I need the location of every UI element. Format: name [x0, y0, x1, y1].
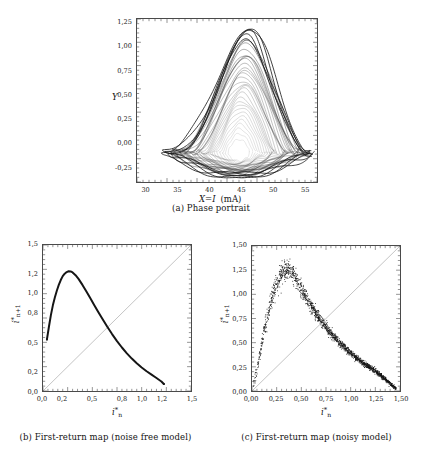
- panel-b-y-axis-star: *: [10, 317, 18, 320]
- panel-c-ytick-4: 0,50: [217, 339, 247, 347]
- panel-c-xtick-2: 0,50: [294, 395, 309, 403]
- panel-b-xtick-2: 0,5: [87, 395, 98, 403]
- panel-a-attractor: [161, 29, 314, 178]
- panel-a-xtick-3: 45: [237, 186, 245, 194]
- panel-phase-portrait: Y 1,25 1,00 0,75 0,50 0,25 0,00 -0,25 30…: [0, 0, 422, 232]
- panel-c-xtick-4: 1,00: [344, 395, 359, 403]
- panel-b-xtick-3: 0,8: [117, 395, 128, 403]
- panel-c-xtick-3: 0,75: [319, 395, 334, 403]
- panel-c-ytick-5: 0,25: [217, 364, 247, 372]
- panel-b-xtick-6: 1,5: [187, 395, 198, 403]
- panel-c-xtick-0: 0,00: [244, 395, 259, 403]
- panel-b-y-axis-symbol: i: [11, 321, 21, 324]
- panel-b-x-axis-title: i*n: [112, 406, 122, 418]
- panel-c-xtick-1: 0,25: [269, 395, 284, 403]
- panel-a-caption: (a) Phase portrait: [0, 203, 422, 213]
- panel-b-ytick-3: 0,8: [8, 309, 38, 317]
- panel-c-ytick-2: 1,00: [217, 290, 247, 298]
- panel-a-ytick-5: 0,00: [100, 139, 132, 147]
- panel-a-ytick-3: 0,50: [100, 91, 132, 99]
- panel-a-xtick-5: 55: [301, 186, 309, 194]
- panel-b-ytick-4: 0,5: [8, 339, 38, 347]
- figure-root: Y 1,25 1,00 0,75 0,50 0,25 0,00 -0,25 30…: [0, 0, 422, 459]
- panel-b-ytick-6: 0,0: [8, 388, 38, 396]
- panel-a-xtick-1: 35: [173, 186, 181, 194]
- panel-a-ytick-1: 1,00: [100, 42, 132, 50]
- panel-c-ytick-1: 1,25: [217, 266, 247, 274]
- panel-a-xtick-4: 50: [269, 186, 277, 194]
- panel-b-xtick-0: 0,0: [37, 395, 48, 403]
- panel-a-plot-area: [136, 18, 318, 183]
- panel-b-svg: [43, 245, 191, 391]
- panel-c-ytick-6: 0,00: [217, 388, 247, 396]
- panel-first-return-noisy: i*n+1 1,50 1,25 1,00 0,75 0,50 0,25 0,00…: [211, 236, 422, 459]
- panel-b-plot-area: [42, 244, 192, 392]
- panel-c-identity-line: [252, 246, 400, 391]
- panel-c-x-axis-title: i*n: [321, 406, 331, 418]
- panel-b-identity-line: [43, 245, 191, 391]
- panel-b-caption: (b) First-return map (noise free model): [0, 432, 211, 442]
- panel-c-xtick-6: 1,50: [394, 395, 409, 403]
- panel-c-svg: [252, 246, 400, 391]
- panel-a-ytick-0: 1,25: [100, 18, 132, 26]
- panel-b-ytick-0: 1,5: [8, 240, 38, 248]
- panel-c-caption: (c) First-return map (noisy model): [211, 432, 422, 442]
- panel-b-ytick-5: 0,2: [8, 368, 38, 376]
- panel-b-ytick-1: 1,2: [8, 270, 38, 278]
- panel-b-xtick-4: 1,0: [137, 395, 148, 403]
- panel-b-xtick-1: 0,2: [57, 395, 68, 403]
- panel-a-ytick-6: -0,25: [100, 164, 132, 172]
- panel-b-x-axis-sub: n: [118, 411, 122, 418]
- panel-c-x-axis-sub: n: [327, 411, 331, 418]
- panel-first-return-noise-free: i*n+1 1,5 1,2 1,0 0,8 0,5 0,2 0,0 0,0 0,…: [0, 236, 211, 459]
- panel-c-xtick-5: 1,25: [369, 395, 384, 403]
- panel-b-xtick-5: 1,2: [157, 395, 168, 403]
- panel-a-svg: [137, 19, 317, 182]
- panel-a-xtick-2: 40: [205, 186, 213, 194]
- panel-c-plot-area: [251, 245, 401, 392]
- panel-c-scatter: [253, 259, 397, 390]
- panel-a-ytick-2: 0,75: [100, 67, 132, 75]
- panel-a-ytick-4: 0,25: [100, 115, 132, 123]
- panel-a-xtick-0: 30: [141, 186, 149, 194]
- panel-c-ytick-0: 1,50: [217, 241, 247, 249]
- panel-b-ytick-2: 1,0: [8, 289, 38, 297]
- panel-c-ytick-3: 0,75: [217, 315, 247, 323]
